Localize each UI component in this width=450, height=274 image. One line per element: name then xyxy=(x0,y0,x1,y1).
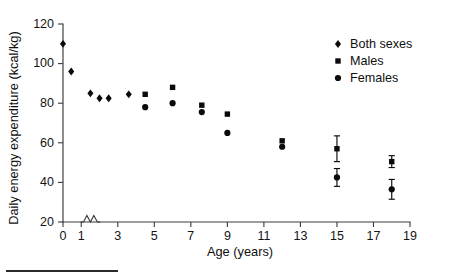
data-point-circle xyxy=(279,144,285,150)
legend-label: Males xyxy=(350,54,384,68)
x-tick-label: 13 xyxy=(293,229,307,243)
series-males xyxy=(142,85,394,168)
x-tick-label: 17 xyxy=(367,229,381,243)
legend-marker-circle xyxy=(335,75,341,81)
x-axis-title: Age (years) xyxy=(207,244,273,259)
data-point-circle xyxy=(334,174,340,180)
series-both-sexes xyxy=(60,40,132,102)
data-point-square xyxy=(199,102,204,107)
x-tick-label: 5 xyxy=(151,229,158,243)
x-tick-label: 0 xyxy=(60,229,67,243)
x-tick-label: 3 xyxy=(114,229,121,243)
data-point-circle xyxy=(199,109,205,115)
data-point-diamond xyxy=(96,94,102,102)
x-tick-label: 1 xyxy=(78,229,85,243)
data-point-square xyxy=(389,159,394,164)
data-point-square xyxy=(142,92,147,97)
scatter-plot: 204060801001200135791113151719 Both sexe… xyxy=(0,0,450,274)
data-point-square xyxy=(170,85,175,90)
y-tick-label: 60 xyxy=(40,136,54,150)
legend-marker-square xyxy=(335,58,340,63)
data-point-square xyxy=(279,138,284,143)
y-tick-label: 80 xyxy=(40,96,54,110)
data-point-circle xyxy=(389,186,395,192)
data-point-diamond xyxy=(60,40,66,48)
data-point-circle xyxy=(142,104,148,110)
legend-label: Both sexes xyxy=(350,37,412,51)
data-point-diamond xyxy=(87,89,93,97)
chart-legend: Both sexesMalesFemales xyxy=(335,37,412,85)
x-axis-break-zigzag xyxy=(80,216,100,223)
figure-container: 204060801001200135791113151719 Both sexe… xyxy=(0,0,450,274)
x-tick-label: 11 xyxy=(257,229,270,243)
data-point-square xyxy=(334,146,339,151)
data-point-square xyxy=(225,111,230,116)
series-females xyxy=(142,100,395,199)
data-point-circle xyxy=(224,130,230,136)
data-point-diamond xyxy=(106,94,112,102)
y-axis-title: Daily energy expenditure (kcal/kg) xyxy=(6,31,21,224)
caption-divider-rule xyxy=(6,270,118,272)
x-tick-label: 15 xyxy=(330,229,344,243)
legend-marker-diamond xyxy=(335,40,341,48)
x-tick-label: 7 xyxy=(187,229,194,243)
y-tick-label: 40 xyxy=(40,175,54,189)
data-point-diamond xyxy=(126,90,132,98)
x-tick-label: 19 xyxy=(403,229,417,243)
y-tick-label: 20 xyxy=(40,215,54,229)
x-tick-label: 9 xyxy=(224,229,231,243)
legend-label: Females xyxy=(350,71,398,85)
data-point-circle xyxy=(169,100,175,106)
data-points-group xyxy=(60,40,395,199)
y-tick-label: 120 xyxy=(33,17,54,31)
data-point-diamond xyxy=(68,68,74,76)
y-tick-label: 100 xyxy=(33,56,54,70)
